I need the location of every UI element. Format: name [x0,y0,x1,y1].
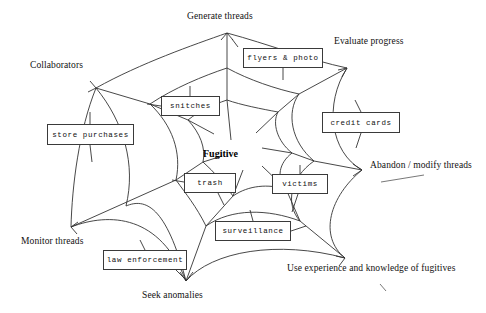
stray-mark [381,175,424,182]
web-arc [292,94,314,161]
box-connector [356,133,361,148]
outer-label-abandon-modify-threads: Abandon / modify threads [370,160,472,170]
node-box-surveillance[interactable]: surveillance [215,221,291,241]
arrowhead [71,222,78,234]
outer-label-generate-threads: Generate threads [187,11,253,21]
diagram-canvas: Fugitive Generate threads Evaluate progr… [0,0,486,313]
node-box-trash[interactable]: trash [184,173,236,193]
web-arc [96,33,227,88]
web-ring-mid [150,68,314,226]
web-arc [71,88,96,227]
box-connector [355,100,361,112]
web-arc [96,88,129,206]
box-connector [250,210,253,221]
node-box-store-purchases[interactable]: store purchases [47,124,134,145]
node-box-snitches[interactable]: snitches [161,96,220,116]
box-connectors [90,39,361,280]
web-arc [227,100,278,112]
web-arc [330,170,362,258]
node-box-victims[interactable]: victims [272,174,328,194]
box-connector [140,240,145,250]
stray-mark [380,284,386,291]
spoke [227,33,231,140]
outer-label-evaluate-progress: Evaluate progress [334,36,404,46]
web-arc [188,120,204,162]
web-arc [276,112,292,153]
node-box-flyers-photo[interactable]: flyers & photo [243,48,323,68]
outer-label-use-experience-knowledge: Use experience and knowledge of fugitive… [287,263,455,273]
outer-label-seek-anomalies: Seek anomalies [142,290,203,300]
outer-label-monitor-threads: Monitor threads [21,236,83,246]
box-connector [232,39,238,47]
center-label: Fugitive [203,148,238,159]
box-connector [291,226,306,231]
web-arc [227,68,299,94]
stray-marks [380,175,424,291]
node-box-credit-cards[interactable]: credit cards [322,112,400,133]
outer-label-collaborators: Collaborators [30,60,83,70]
box-connector [90,145,92,162]
box-connector [218,193,224,205]
node-box-law-enforcement[interactable]: law enforcement [103,250,187,270]
